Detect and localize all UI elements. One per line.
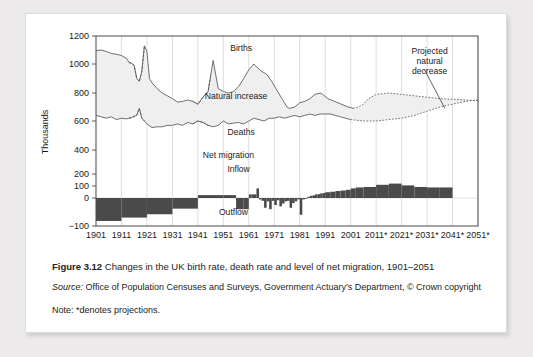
net-migration-bar (307, 197, 310, 198)
net-migration-bar (256, 188, 259, 198)
net-migration-bar (284, 198, 287, 201)
annotation-outflow: Outflow (219, 207, 249, 217)
net-migration-bar (295, 198, 298, 201)
net-migration-bar (427, 187, 440, 198)
net-migration-bar (277, 198, 280, 200)
x-tick-label: 1901 (86, 230, 106, 240)
net-migration-bar (292, 198, 295, 203)
net-migration-bar (287, 198, 290, 201)
net-migration-bar (297, 198, 300, 199)
x-tick-label: 1951 (213, 230, 233, 240)
net-migration-bar (300, 198, 303, 215)
net-migration-bar (121, 198, 146, 218)
net-migration-bar (251, 194, 256, 198)
x-tick-label: 2051* (466, 230, 490, 240)
x-tick-label: 1911 (112, 230, 131, 240)
annotation-net-migration: Net migration (203, 150, 254, 160)
y-axis-title: Thousands (40, 109, 50, 154)
net-migration-bar (264, 198, 267, 208)
net-migration-bar (323, 193, 326, 198)
figure-caption: Figure 3.12 Changes in the UK birth rate… (52, 261, 488, 273)
net-migration-bar (172, 198, 197, 209)
net-migration-bar (302, 198, 305, 199)
net-migration-bar (315, 194, 318, 198)
annotation-births: Births (230, 43, 252, 53)
net-migration-bar (318, 194, 321, 198)
source-text: Office of Population Censuses and Survey… (86, 282, 482, 292)
y-tick-label: 600 (74, 116, 89, 126)
annotation-projected-natural-decrease: decrease (412, 66, 448, 76)
net-migration-bar (325, 192, 330, 198)
y-tick-label: 100 (74, 181, 89, 191)
annotation-deaths: Deaths (228, 127, 255, 137)
net-migration-bar (440, 187, 453, 198)
x-tick-label: 1981 (290, 230, 310, 240)
net-migration-bar (269, 198, 272, 209)
figure-number: Figure 3.12 (52, 261, 102, 272)
net-migration-bar (305, 198, 308, 199)
y-tick-label: 0 (84, 193, 89, 203)
net-migration-bar (274, 198, 277, 205)
y-tick-label: 200 (74, 169, 89, 179)
x-tick-label: 1991 (315, 230, 335, 240)
y-tick-label: 1000 (69, 59, 89, 69)
figure-caption-text: Changes in the UK birth rate, death rate… (105, 261, 435, 272)
figure-note: Note: *denotes projections. (52, 305, 488, 317)
annotation-natural-increase: Natural increase (205, 91, 268, 101)
net-migration-bar (351, 188, 356, 198)
annotation-projected-natural-decrease: natural (416, 56, 442, 66)
net-migration-bar (147, 198, 172, 214)
x-tick-label: 2011* (365, 230, 388, 240)
net-migration-bar (96, 198, 121, 221)
net-migration-bar (340, 191, 345, 198)
x-tick-label: 1941 (188, 230, 208, 240)
net-migration-bar (389, 184, 402, 198)
net-migration-bar (198, 195, 223, 198)
net-migration-bar (335, 191, 340, 198)
net-migration-bar (320, 193, 323, 198)
figure-source: Source: Office of Population Censuses an… (52, 282, 488, 294)
net-migration-bar (223, 195, 236, 198)
y-tick-label: 800 (74, 88, 89, 98)
net-migration-bar (262, 198, 265, 201)
x-tick-label: 1961 (239, 230, 259, 240)
net-migration-bar (363, 187, 376, 198)
net-migration-bar (290, 198, 293, 208)
net-migration-bar (279, 198, 282, 206)
net-migration-bar (259, 198, 262, 199)
y-tick-label: 400 (74, 145, 89, 155)
x-tick-label: 2021* (390, 230, 414, 240)
chart-container: 120010008006004002001000−100Thousands190… (26, 14, 508, 246)
annotation-projected-natural-decrease: Projected (411, 46, 448, 56)
net-migration-bar (312, 195, 315, 198)
net-migration-bar (249, 194, 252, 198)
net-migration-bar (282, 198, 285, 204)
net-migration-bar (267, 198, 270, 201)
x-tick-label: 2031* (415, 230, 439, 240)
demographics-chart: 120010008006004002001000−100Thousands190… (26, 14, 508, 246)
net-migration-bar (414, 187, 427, 198)
source-label: Source: (52, 282, 83, 292)
x-tick-label: 2001 (341, 230, 361, 240)
net-migration-bar (346, 190, 351, 198)
net-migration-bar (272, 198, 275, 201)
x-tick-label: 1921 (137, 230, 157, 240)
net-migration-bar (402, 185, 415, 198)
figure-card: 120010008006004002001000−100Thousands190… (25, 13, 507, 333)
y-tick-label: 1200 (69, 31, 89, 41)
annotation-inflow: Inflow (227, 164, 250, 174)
net-migration-bar (330, 192, 335, 198)
x-tick-label: 1931 (162, 230, 182, 240)
net-migration-bar (356, 187, 364, 198)
net-migration-bar (376, 185, 389, 198)
x-tick-label: 2041* (441, 230, 465, 240)
net-migration-bar (310, 196, 313, 198)
x-tick-label: 1971 (264, 230, 284, 240)
